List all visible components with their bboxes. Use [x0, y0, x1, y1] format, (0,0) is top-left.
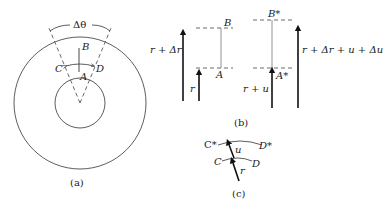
label-b-b: B: [223, 17, 231, 28]
label-r-total: r + Δr + u + Δu: [302, 44, 383, 55]
arc-cd-c: [222, 158, 252, 161]
label-d: D: [95, 63, 104, 74]
label-a-b: A: [215, 69, 223, 80]
delta-theta-arc: [50, 25, 70, 31]
label-r-plus-u: r + u: [243, 83, 269, 94]
arrow-u: [228, 142, 234, 158]
caption-c: (c): [232, 188, 246, 199]
arc-cd: [66, 64, 94, 66]
delta-theta-arc: [92, 25, 110, 31]
caption-b: (b): [234, 117, 248, 128]
label-c-star: C*: [204, 139, 217, 150]
label-r: r: [190, 83, 196, 94]
label-a-star: A*: [275, 70, 288, 81]
label-a: A: [79, 71, 87, 82]
panel-a: Δθ B C D A (a): [14, 19, 146, 188]
label-r-plus-dr: r + Δr: [150, 44, 183, 55]
caption-a: (a): [70, 177, 84, 188]
label-r-c: r: [240, 165, 246, 176]
label-b: B: [81, 41, 89, 52]
label-u: u: [235, 144, 241, 155]
panel-c: C* D* u C D r (c): [204, 139, 272, 199]
arrow-r-c: [232, 160, 239, 181]
panel-b: r + Δr r B A B* A* r + u r + Δr + u + Δu…: [150, 8, 383, 128]
delta-theta-label: Δθ: [73, 19, 86, 30]
label-d-c: D: [251, 158, 260, 169]
label-c: C: [55, 63, 63, 74]
label-b-star: B*: [267, 8, 280, 19]
deformation-diagram: Δθ B C D A (a) r + Δr r B A B* A* r + u: [0, 0, 387, 214]
label-c-c: C: [214, 156, 222, 167]
label-d-star: D*: [258, 140, 272, 151]
